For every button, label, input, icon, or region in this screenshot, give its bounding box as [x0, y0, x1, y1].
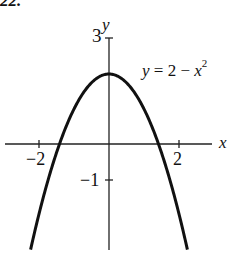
y-axis-label: y — [102, 16, 110, 33]
y-tick-label-neg1: −1 — [80, 171, 99, 189]
x-tick-label-2: 2 — [173, 150, 182, 168]
equation-middle: = 2 − — [150, 61, 195, 80]
x-tick-label-neg2: −2 — [26, 150, 45, 168]
equation-exponent: 2 — [202, 57, 208, 69]
parabola-plot — [0, 0, 234, 260]
y-tick-label-3: 3 — [92, 26, 102, 45]
equation-label: y = 2 − x2 — [142, 60, 207, 79]
x-axis-label: x — [219, 134, 227, 151]
equation-x: x — [194, 61, 202, 80]
equation-y: y — [142, 61, 150, 80]
